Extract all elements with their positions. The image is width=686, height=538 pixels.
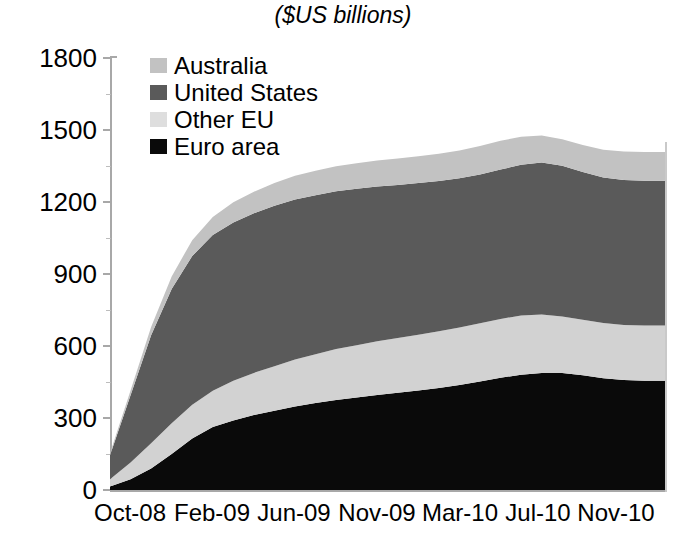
- legend-item-australia[interactable]: Australia: [150, 52, 380, 79]
- legend-label: Other EU: [174, 108, 274, 132]
- x-axis-line: [110, 490, 667, 492]
- y-axis-label-1200: 1200: [5, 189, 97, 215]
- x-axis-label-oct-08: Oct-08: [94, 498, 166, 528]
- legend-label: United States: [174, 81, 318, 105]
- y-axis-label-300: 300: [5, 405, 97, 431]
- x-axis-label-nov-10: Nov-10: [577, 498, 654, 528]
- x-axis-label-jun-09: Jun-09: [257, 498, 330, 528]
- plot-right-edge: [665, 142, 667, 492]
- chart-legend: AustraliaUnited StatesOther EUEuro area: [150, 52, 380, 160]
- x-axis-label-jul-10: Jul-10: [505, 498, 570, 528]
- x-axis-label-mar-10: Mar-10: [422, 498, 498, 528]
- x-axis-label-feb-09: Feb-09: [174, 498, 250, 528]
- legend-item-euro-area[interactable]: Euro area: [150, 133, 380, 160]
- y-axis-label-1500: 1500: [5, 117, 97, 143]
- legend-label: Australia: [174, 54, 267, 78]
- chart-container: ($US billions) 0300600900120015001800 Oc…: [0, 0, 686, 538]
- legend-swatch-icon-euro-area: [150, 139, 167, 154]
- y-axis-label-600: 600: [5, 333, 97, 359]
- x-axis-labels: Oct-08Feb-09Jun-09Nov-09Mar-10Jul-10Nov-…: [0, 498, 686, 532]
- legend-label: Euro area: [174, 135, 279, 159]
- legend-swatch-icon-other-eu: [150, 112, 167, 127]
- y-axis-label-1800: 1800: [5, 45, 97, 71]
- legend-swatch-icon-united-states: [150, 85, 167, 100]
- chart-title: ($US billions): [0, 2, 686, 29]
- y-axis-label-900: 900: [5, 261, 97, 287]
- legend-item-united-states[interactable]: United States: [150, 79, 380, 106]
- legend-swatch-icon-australia: [150, 58, 167, 73]
- x-axis-label-nov-09: Nov-09: [338, 498, 415, 528]
- legend-item-other-eu[interactable]: Other EU: [150, 106, 380, 133]
